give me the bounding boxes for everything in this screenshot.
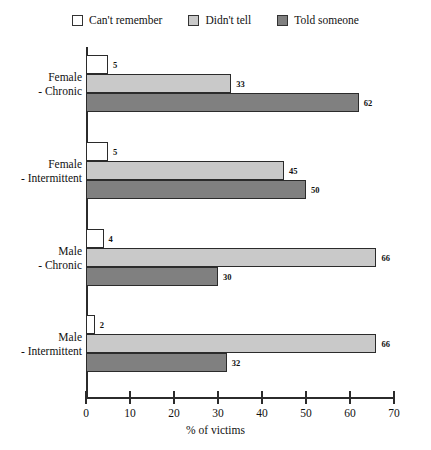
bar [86, 229, 104, 248]
x-tick-0 [85, 391, 87, 404]
bar [86, 93, 359, 112]
bar-value-label: 50 [311, 186, 320, 195]
x-tick-label-40: 40 [256, 407, 268, 419]
legend-swatch-didnt-tell [188, 15, 199, 26]
bar [86, 315, 95, 334]
category-label-line: - Intermittent [0, 344, 82, 358]
bar-value-label: 30 [223, 273, 232, 282]
bar-value-label: 32 [232, 359, 241, 368]
category-label: Male- Chronic [0, 244, 82, 272]
x-tick-30 [217, 391, 219, 404]
legend-swatch-told-someone [277, 15, 288, 26]
legend-item-told-someone: Told someone [277, 14, 359, 26]
bar-chart: Can't remember Didn't tell Told someone … [0, 0, 431, 450]
bar [86, 248, 376, 267]
category-label-line: Female [0, 157, 82, 171]
bar-value-label: 5 [113, 148, 117, 157]
x-tick-label-70: 70 [388, 407, 400, 419]
bar-value-label: 66 [381, 254, 390, 263]
bar-value-label: 45 [289, 167, 298, 176]
bar [86, 334, 376, 353]
x-tick-50 [305, 391, 307, 404]
x-tick-60 [349, 391, 351, 404]
bar-value-label: 5 [113, 61, 117, 70]
category-label-line: Male [0, 244, 82, 258]
category-label-line: Male [0, 330, 82, 344]
x-tick-label-60: 60 [344, 407, 356, 419]
legend-label-didnt-tell: Didn't tell [205, 14, 251, 26]
bar [86, 161, 284, 180]
x-tick-label-20: 20 [168, 407, 180, 419]
x-tick-label-50: 50 [300, 407, 312, 419]
category-label-line: - Chronic [0, 84, 82, 98]
legend-item-cant-remember: Can't remember [72, 14, 162, 26]
category-label-line: - Chronic [0, 258, 82, 272]
category-label: Male- Intermittent [0, 330, 82, 358]
category-label: Female- Intermittent [0, 157, 82, 185]
x-axis-title: % of victims [0, 424, 431, 436]
chart-legend: Can't remember Didn't tell Told someone [0, 14, 431, 26]
x-tick-label-30: 30 [212, 407, 224, 419]
bar [86, 55, 108, 74]
bar [86, 267, 218, 286]
x-axis-line [86, 397, 394, 399]
bar [86, 353, 227, 372]
bar-value-label: 4 [109, 235, 113, 244]
legend-swatch-cant-remember [72, 15, 83, 26]
x-tick-70 [393, 391, 395, 404]
category-label-line: Female [0, 70, 82, 84]
category-label: Female- Chronic [0, 70, 82, 98]
plot-area: 010203040506070 53362545504663026632 [86, 47, 394, 397]
legend-label-told-someone: Told someone [294, 14, 359, 26]
bar-value-label: 66 [381, 340, 390, 349]
bar [86, 142, 108, 161]
x-tick-40 [261, 391, 263, 404]
x-tick-label-10: 10 [124, 407, 136, 419]
bar [86, 74, 231, 93]
x-tick-label-0: 0 [83, 407, 89, 419]
bar-value-label: 33 [236, 80, 245, 89]
legend-item-didnt-tell: Didn't tell [188, 14, 251, 26]
bar [86, 180, 306, 199]
x-tick-20 [173, 391, 175, 404]
legend-label-cant-remember: Can't remember [89, 14, 162, 26]
bar-value-label: 2 [100, 321, 104, 330]
bar-value-label: 62 [364, 99, 373, 108]
category-label-line: - Intermittent [0, 171, 82, 185]
x-tick-10 [129, 391, 131, 404]
